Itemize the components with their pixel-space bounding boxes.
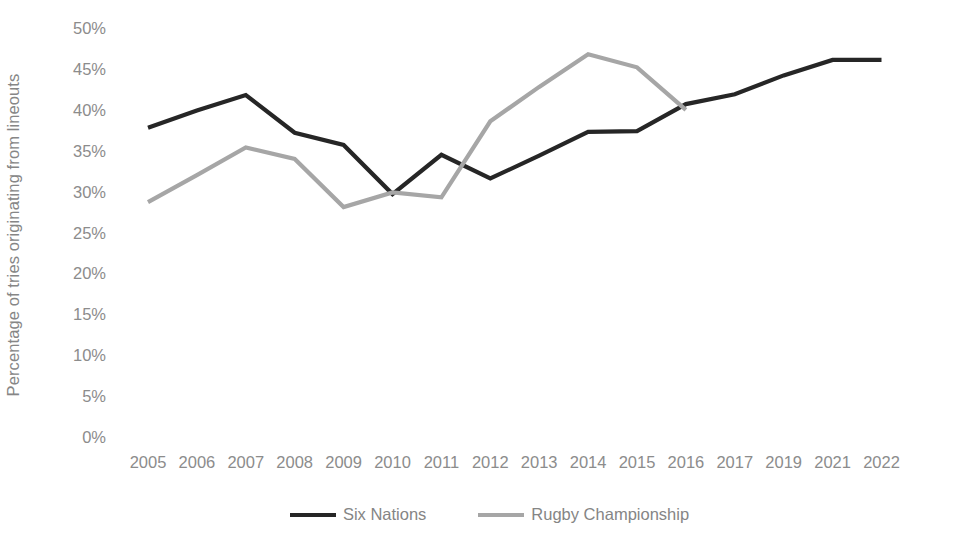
chart-legend: Six NationsRugby Championship <box>0 505 979 524</box>
legend-label: Rugby Championship <box>531 505 689 524</box>
legend-color-swatch <box>478 513 524 517</box>
legend-item[interactable]: Six Nations <box>290 505 426 524</box>
x-axis-tick-label: 2022 <box>852 453 912 472</box>
legend-color-swatch <box>290 513 336 517</box>
line-chart: Percentage of tries originating from lin… <box>0 0 979 557</box>
plot-area <box>0 0 979 460</box>
legend-label: Six Nations <box>343 505 426 524</box>
x-axis-tick-labels: 2005200620072008200920102011201220132014… <box>0 453 979 481</box>
series-line-six-nations <box>148 60 882 194</box>
legend-item[interactable]: Rugby Championship <box>478 505 689 524</box>
series-svg <box>0 0 979 460</box>
